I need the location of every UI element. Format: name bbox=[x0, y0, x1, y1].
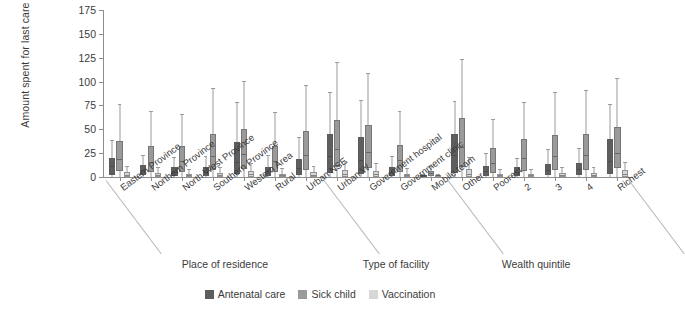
box-plot[interactable] bbox=[607, 10, 613, 177]
whisker-upper bbox=[361, 101, 362, 137]
box-plot[interactable] bbox=[490, 10, 496, 177]
box-plot[interactable] bbox=[583, 10, 589, 177]
box-iqr bbox=[303, 131, 309, 170]
box-plot[interactable] bbox=[466, 10, 472, 177]
box-plot[interactable] bbox=[614, 10, 620, 177]
whisker-upper bbox=[337, 63, 338, 120]
median-line bbox=[359, 160, 363, 161]
legend-item[interactable]: Antenatal care bbox=[205, 288, 286, 300]
median-line bbox=[529, 175, 533, 176]
box-plot[interactable] bbox=[358, 10, 364, 177]
box-plot[interactable] bbox=[373, 10, 379, 177]
whisker-upper bbox=[399, 112, 400, 144]
box-plot[interactable] bbox=[528, 10, 534, 177]
whisker-cap-upper bbox=[623, 162, 627, 163]
plot-area bbox=[104, 10, 633, 177]
box-plot[interactable] bbox=[397, 10, 403, 177]
box-plot[interactable] bbox=[296, 10, 302, 177]
legend-swatch bbox=[298, 290, 307, 299]
box-plot[interactable] bbox=[622, 10, 628, 177]
whisker-cap-upper bbox=[498, 169, 502, 170]
box-plot[interactable] bbox=[241, 10, 247, 177]
box-plot[interactable] bbox=[514, 10, 520, 177]
whisker-cap-upper bbox=[273, 112, 277, 113]
box-plot[interactable] bbox=[116, 10, 122, 177]
box-iqr bbox=[576, 163, 582, 175]
whisker-upper bbox=[579, 149, 580, 162]
box-iqr bbox=[116, 141, 122, 172]
median-line bbox=[491, 163, 495, 164]
whisker-cap-upper bbox=[453, 101, 457, 102]
median-line bbox=[297, 168, 301, 169]
box-plot[interactable] bbox=[310, 10, 316, 177]
whisker-upper bbox=[461, 60, 462, 118]
box-group bbox=[514, 10, 535, 177]
box-plot[interactable] bbox=[521, 10, 527, 177]
whisker-upper bbox=[524, 103, 525, 139]
group-bracket-line bbox=[323, 180, 379, 254]
box-plot[interactable] bbox=[459, 10, 465, 177]
box-plot[interactable] bbox=[109, 10, 115, 177]
median-line bbox=[242, 154, 246, 155]
box-plot[interactable] bbox=[210, 10, 216, 177]
y-axis-tick-label: 75 bbox=[62, 99, 96, 111]
whisker-upper bbox=[368, 74, 369, 125]
box-plot[interactable] bbox=[389, 10, 395, 177]
box-plot[interactable] bbox=[428, 10, 434, 177]
whisker-upper bbox=[485, 154, 486, 165]
whisker-lower bbox=[610, 174, 611, 177]
whisker-cap-upper bbox=[546, 149, 550, 150]
box-plot[interactable] bbox=[545, 10, 551, 177]
box-plot[interactable] bbox=[365, 10, 371, 177]
whisker-upper bbox=[150, 112, 151, 145]
whisker-cap-upper bbox=[281, 168, 285, 169]
whisker-lower bbox=[547, 175, 548, 177]
whisker-cap-upper bbox=[335, 62, 339, 63]
group-label: Wealth quintile bbox=[502, 258, 571, 270]
median-line bbox=[335, 149, 339, 150]
box-plot[interactable] bbox=[483, 10, 489, 177]
box-plot[interactable] bbox=[148, 10, 154, 177]
box-plot[interactable] bbox=[124, 10, 130, 177]
median-line bbox=[584, 155, 588, 156]
box-plot[interactable] bbox=[497, 10, 503, 177]
whisker-cap-upper bbox=[235, 102, 239, 103]
box-plot[interactable] bbox=[334, 10, 340, 177]
legend-item[interactable]: Sick child bbox=[298, 288, 355, 300]
whisker-cap-upper bbox=[110, 140, 114, 141]
whisker-cap-upper bbox=[187, 169, 191, 170]
median-line bbox=[110, 166, 114, 167]
whisker-upper bbox=[119, 105, 120, 140]
median-line bbox=[553, 156, 557, 157]
y-axis-tick-label: 150 bbox=[62, 28, 96, 40]
median-line bbox=[304, 155, 308, 156]
box-plot[interactable] bbox=[272, 10, 278, 177]
x-axis-label: 3 bbox=[553, 181, 564, 193]
box-plot[interactable] bbox=[576, 10, 582, 177]
legend-item[interactable]: Vaccination bbox=[369, 288, 436, 300]
x-axis-label: 2 bbox=[522, 181, 533, 193]
whisker-upper bbox=[212, 89, 213, 134]
group-bracket-line bbox=[629, 180, 685, 254]
legend-swatch bbox=[205, 290, 214, 299]
group-bracket-line bbox=[106, 180, 162, 254]
whisker-lower bbox=[298, 175, 299, 177]
box-group bbox=[358, 10, 379, 177]
box-plot[interactable] bbox=[179, 10, 185, 177]
whisker-cap-upper bbox=[592, 167, 596, 168]
x-axis-tickmark bbox=[400, 177, 401, 181]
box-plot[interactable] bbox=[552, 10, 558, 177]
median-line bbox=[560, 175, 564, 176]
box-plot[interactable] bbox=[342, 10, 348, 177]
whisker-upper bbox=[112, 141, 113, 158]
whisker-cap-upper bbox=[553, 92, 557, 93]
y-axis-tick-label: 175 bbox=[62, 4, 96, 16]
box-plot[interactable] bbox=[591, 10, 597, 177]
box-plot[interactable] bbox=[140, 10, 146, 177]
whisker-cap-upper bbox=[584, 90, 588, 91]
box-plot[interactable] bbox=[327, 10, 333, 177]
box-plot[interactable] bbox=[559, 10, 565, 177]
whisker-cap-upper bbox=[515, 158, 519, 159]
whisker-cap-upper bbox=[522, 102, 526, 103]
box-plot[interactable] bbox=[303, 10, 309, 177]
